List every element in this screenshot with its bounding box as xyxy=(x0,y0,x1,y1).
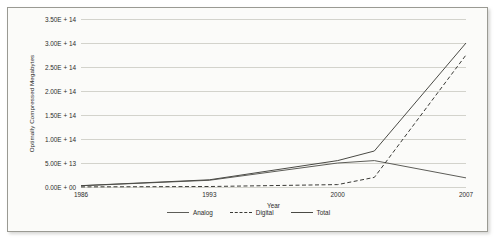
legend-swatch-icon xyxy=(230,212,252,213)
series-lines xyxy=(81,19,466,187)
legend-swatch-icon xyxy=(291,212,313,213)
y-axis-title: Optimally Compressed Megabytes xyxy=(28,19,35,189)
x-axis-title: Year xyxy=(81,202,466,209)
legend-label: Total xyxy=(317,209,331,216)
y-axis-tick-label: 1.50E + 14 xyxy=(45,112,76,119)
legend-item-analog[interactable]: Analog xyxy=(167,209,213,216)
chart-panel: Optimally Compressed Megabytes 0.00E + 0… xyxy=(7,7,488,232)
y-axis-tick-label: 3.00E + 14 xyxy=(45,40,76,47)
y-axis-tick-label: 5.00E + 13 xyxy=(45,160,76,167)
plot-area: 0.00E + 005.00E + 131.00E + 141.50E + 14… xyxy=(81,19,466,187)
gridline xyxy=(81,187,466,188)
legend-item-digital[interactable]: Digital xyxy=(230,209,274,216)
legend-label: Analog xyxy=(193,209,213,216)
y-axis-tick-label: 2.00E + 14 xyxy=(45,88,76,95)
x-axis-tick-label: 2007 xyxy=(459,191,473,198)
chart-figure: Optimally Compressed Megabytes 0.00E + 0… xyxy=(0,0,501,246)
y-axis-tick-label: 1.00E + 14 xyxy=(45,136,76,143)
legend-swatch-icon xyxy=(167,212,189,213)
legend-label: Digital xyxy=(256,209,274,216)
x-axis-tick-label: 1986 xyxy=(74,191,88,198)
legend-item-total[interactable]: Total xyxy=(291,209,331,216)
y-axis-tick-label: 2.50E + 14 xyxy=(45,64,76,71)
series-line-analog xyxy=(81,161,466,186)
series-line-total xyxy=(81,43,466,186)
x-axis-tick-label: 2000 xyxy=(331,191,345,198)
y-axis-tick-label: 0.00E + 00 xyxy=(45,184,76,191)
chart-legend: AnalogDigitalTotal xyxy=(8,209,489,216)
y-axis-tick-label: 3.50E + 14 xyxy=(45,16,76,23)
x-axis-tick-label: 1993 xyxy=(202,191,216,198)
